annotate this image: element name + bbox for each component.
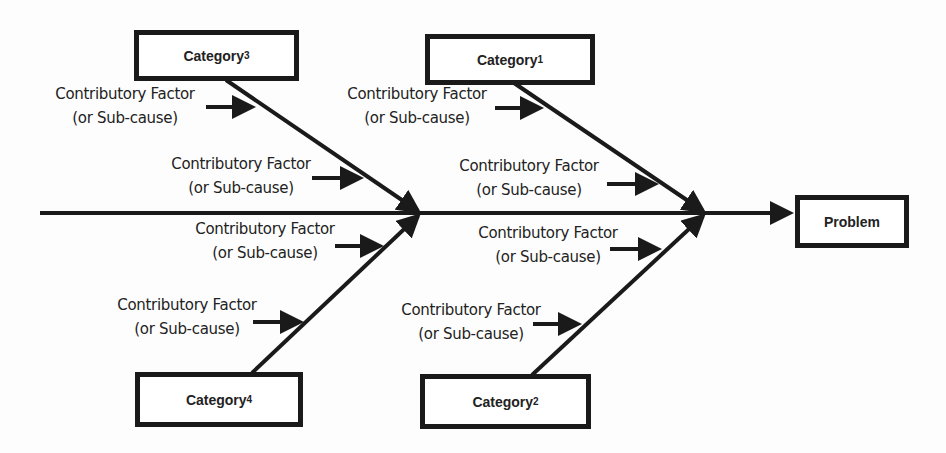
category-subscript: 4	[247, 394, 253, 405]
factor-line2: (or Sub-cause)	[176, 241, 354, 265]
category-label: Category	[477, 52, 538, 68]
fishbone-diagram: Category3 Category1 Category4 Category2 …	[0, 0, 946, 453]
category-label: Category	[183, 48, 244, 64]
category1-box: Category1	[425, 34, 595, 85]
factor-line1: Contributory Factor	[98, 293, 276, 317]
category-label: Category	[472, 394, 533, 410]
factor-label: Contributory Factor (or Sub-cause)	[382, 298, 560, 346]
factor-line1: Contributory Factor	[36, 82, 214, 106]
factor-label: Contributory Factor (or Sub-cause)	[459, 221, 637, 269]
factor-line1: Contributory Factor	[328, 82, 506, 106]
factor-line2: (or Sub-cause)	[36, 106, 214, 130]
factor-line1: Contributory Factor	[176, 217, 354, 241]
category-label: Category	[186, 392, 247, 408]
factor-label: Contributory Factor (or Sub-cause)	[152, 152, 330, 200]
problem-box: Problem	[795, 195, 909, 248]
factor-label: Contributory Factor (or Sub-cause)	[98, 293, 276, 341]
category3-box: Category3	[134, 30, 299, 81]
category-subscript: 3	[244, 50, 250, 61]
factor-line1: Contributory Factor	[440, 154, 618, 178]
factor-line2: (or Sub-cause)	[459, 245, 637, 269]
category-subscript: 2	[533, 396, 539, 407]
category2-box: Category2	[420, 374, 591, 429]
category4-box: Category4	[135, 372, 303, 427]
factor-line1: Contributory Factor	[152, 152, 330, 176]
factor-label: Contributory Factor (or Sub-cause)	[36, 82, 214, 130]
factor-line2: (or Sub-cause)	[98, 317, 276, 341]
factor-label: Contributory Factor (or Sub-cause)	[176, 217, 354, 265]
factor-label: Contributory Factor (or Sub-cause)	[328, 82, 506, 130]
factor-line2: (or Sub-cause)	[152, 176, 330, 200]
problem-label: Problem	[824, 214, 880, 230]
category-subscript: 1	[538, 54, 544, 65]
factor-line1: Contributory Factor	[459, 221, 637, 245]
factor-line2: (or Sub-cause)	[440, 178, 618, 202]
factor-line1: Contributory Factor	[382, 298, 560, 322]
factor-line2: (or Sub-cause)	[382, 322, 560, 346]
factor-line2: (or Sub-cause)	[328, 106, 506, 130]
factor-label: Contributory Factor (or Sub-cause)	[440, 154, 618, 202]
